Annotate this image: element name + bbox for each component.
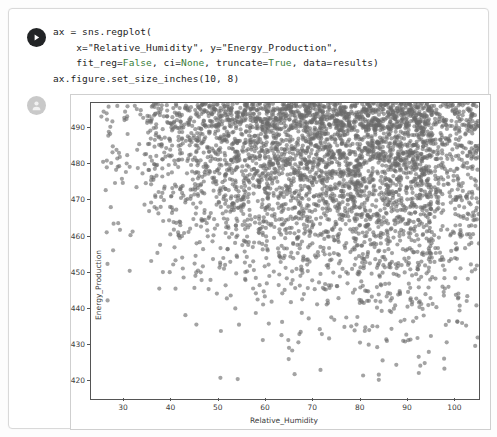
y-tick-mark [87,344,90,345]
y-tick-label: 490 [71,123,85,132]
x-tick-label: 30 [118,403,128,412]
y-tick-label: 450 [71,267,85,276]
matplotlib-figure: 4204304404504604704804903040506070809010… [70,94,491,430]
x-tick-mark [123,398,124,401]
code-line-2: x="Relative_Humidity", y="Energy_Product… [53,40,483,56]
code-line-3-post: , data=results) [292,57,379,68]
y-tick-mark [87,199,90,200]
x-tick-mark [312,398,313,401]
play-icon[interactable] [27,28,46,47]
x-tick-label: 80 [355,403,365,412]
code-line-3-pre: fit_reg= [53,57,123,68]
keyword-false: False [123,57,152,68]
x-tick-mark [218,398,219,401]
x-tick-mark [360,398,361,401]
x-tick-label: 60 [260,403,270,412]
y-tick-mark [87,272,90,273]
x-tick-mark [454,398,455,401]
y-tick-mark [87,163,90,164]
x-tick-mark [407,398,408,401]
x-tick-label: 100 [447,403,461,412]
y-tick-label: 480 [71,159,85,168]
notebook-screenshot: ax = sns.regplot( x="Relative_Humidity",… [0,0,497,437]
y-tick-label: 460 [71,231,85,240]
code-block[interactable]: ax = sns.regplot( x="Relative_Humidity",… [53,24,483,86]
code-line-4: ax.figure.set_size_inches(10, 8) [53,71,483,87]
y-tick-mark [87,308,90,309]
x-tick-label: 70 [308,403,318,412]
avatar-icon [27,96,46,115]
y-tick-label: 430 [71,339,85,348]
y-tick-label: 470 [71,195,85,204]
keyword-none: None [181,57,204,68]
x-axis-label: Relative_Humidity [250,416,318,425]
y-tick-mark [87,380,90,381]
code-line-3-mid1: , ci= [152,57,181,68]
x-tick-label: 90 [402,403,412,412]
x-tick-mark [170,398,171,401]
y-tick-label: 440 [71,303,85,312]
scatter-plot-axes [90,102,480,400]
y-axis-label: Energy_Production [94,250,103,320]
x-tick-mark [265,398,266,401]
code-line-1: ax = sns.regplot( [53,24,483,40]
x-tick-label: 50 [213,403,223,412]
code-line-3-mid2: , truncate= [204,57,268,68]
keyword-true: True [268,57,291,68]
code-line-3: fit_reg=False, ci=None, truncate=True, d… [53,55,483,71]
y-tick-mark [87,127,90,128]
scatter-points [91,103,479,399]
x-tick-label: 40 [166,403,176,412]
y-tick-mark [87,236,90,237]
y-tick-label: 420 [71,375,85,384]
notebook-cell[interactable]: ax = sns.regplot( x="Relative_Humidity",… [8,8,489,429]
